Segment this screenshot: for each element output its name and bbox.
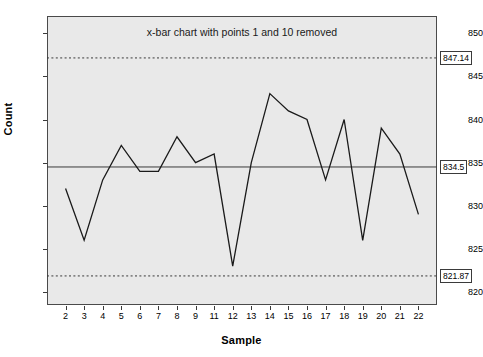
x-tick-mark — [233, 306, 234, 310]
x-tick-mark — [400, 306, 401, 310]
x-tick-mark — [363, 306, 364, 310]
x-tick-label: 22 — [406, 311, 430, 321]
y-tick-label: 850 — [445, 28, 483, 38]
x-tick-mark — [288, 306, 289, 310]
x-tick-mark — [158, 306, 159, 310]
y-tick-label: 845 — [445, 71, 483, 81]
x-tick-mark — [177, 306, 178, 310]
center-line-label: 834.5 — [440, 160, 467, 174]
plot-svg — [47, 16, 437, 305]
y-axis-title: Count — [2, 79, 22, 159]
series-line — [66, 94, 419, 267]
upper-control-limit-label: 847.14 — [440, 51, 472, 65]
x-tick-mark — [251, 306, 252, 310]
control-chart: Count x-bar chart with points 1 and 10 r… — [0, 0, 483, 357]
x-tick-mark — [418, 306, 419, 310]
y-tick-label: 840 — [445, 115, 483, 125]
y-tick-label: 830 — [445, 201, 483, 211]
x-tick-mark — [214, 306, 215, 310]
x-tick-mark — [84, 306, 85, 310]
x-tick-mark — [196, 306, 197, 310]
x-tick-mark — [103, 306, 104, 310]
x-tick-mark — [381, 306, 382, 310]
x-tick-mark — [140, 306, 141, 310]
x-tick-mark — [121, 306, 122, 310]
x-tick-mark — [270, 306, 271, 310]
lower-control-limit-label: 821.87 — [440, 269, 472, 283]
y-tick-label: 820 — [445, 287, 483, 297]
x-tick-mark — [344, 306, 345, 310]
x-tick-mark — [326, 306, 327, 310]
y-tick-label: 825 — [445, 244, 483, 254]
x-tick-mark — [307, 306, 308, 310]
x-axis-title: Sample — [0, 334, 483, 346]
x-tick-mark — [66, 306, 67, 310]
